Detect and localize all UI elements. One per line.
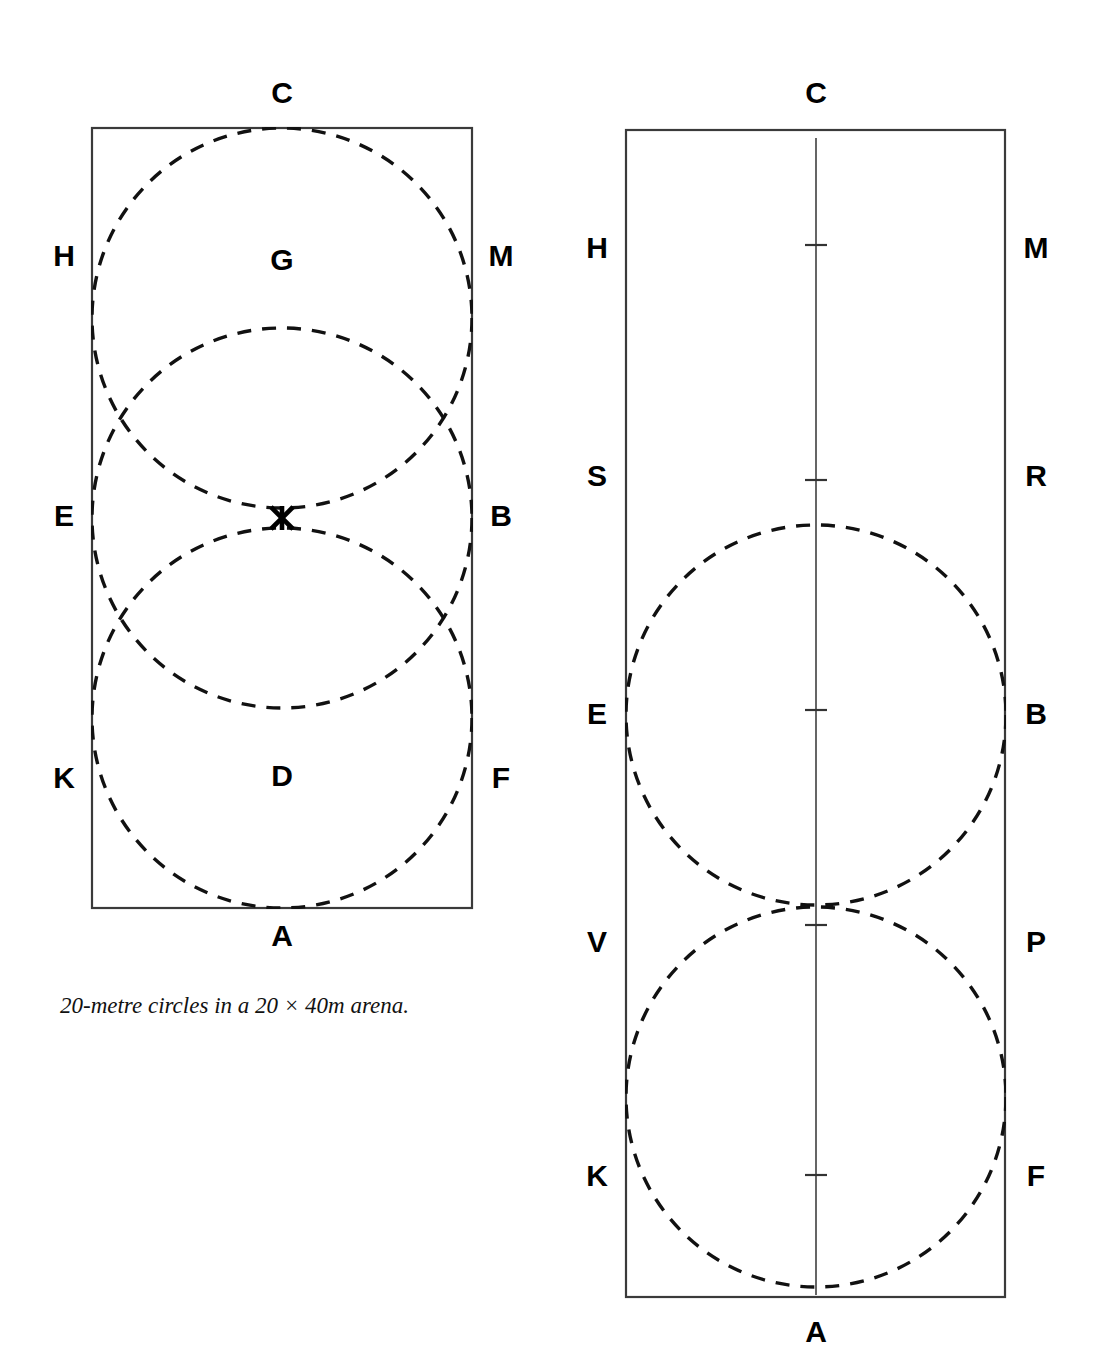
arena-diagrams-canvas: CHMGEBKFDA CHMSREBVPKFA — [0, 0, 1098, 1372]
left-marker-a: A — [271, 919, 293, 952]
right-marker-f: F — [1027, 1159, 1045, 1192]
right-diagram: CHMSREBVPKFA — [586, 76, 1048, 1348]
left-marker-d: D — [271, 759, 293, 792]
right-marker-a: A — [805, 1315, 827, 1348]
right-marker-v: V — [587, 925, 607, 958]
right-marker-k: K — [586, 1159, 608, 1192]
dressage-arena-figure: CHMGEBKFDA CHMSREBVPKFA 20-metre circles… — [0, 0, 1098, 1372]
left-marker-e: E — [54, 499, 74, 532]
right-arena-letter-markers: CHMSREBVPKFA — [586, 76, 1048, 1348]
left-marker-h: H — [53, 239, 75, 272]
right-marker-b: B — [1025, 697, 1047, 730]
left-diagram: CHMGEBKFDA — [53, 76, 513, 952]
left-circle-at-G — [92, 128, 472, 508]
right-marker-m: M — [1024, 231, 1049, 264]
left-marker-b: B — [490, 499, 512, 532]
left-circle-at-D — [92, 528, 472, 908]
left-centre-point-x-marker — [271, 506, 293, 530]
right-marker-e: E — [587, 697, 607, 730]
right-marker-r: R — [1025, 459, 1047, 492]
right-marker-p: P — [1026, 925, 1046, 958]
left-marker-f: F — [492, 761, 510, 794]
left-marker-g: G — [270, 243, 293, 276]
right-marker-c: C — [805, 76, 827, 109]
left-marker-k: K — [53, 761, 75, 794]
right-marker-s: S — [587, 459, 607, 492]
left-marker-c: C — [271, 76, 293, 109]
left-marker-m: M — [489, 239, 514, 272]
figure-caption: 20-metre circles in a 20 × 40m arena. — [60, 993, 409, 1019]
right-marker-h: H — [586, 231, 608, 264]
